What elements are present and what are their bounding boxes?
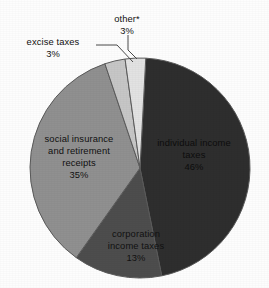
slice-label-line1: individual income <box>157 137 231 148</box>
slice-label-line1: other* <box>114 13 140 24</box>
pie-chart-figure: individual income taxes 46% social insur… <box>0 0 269 288</box>
slice-label-line1: corporation <box>112 228 160 239</box>
slice-percent: 46% <box>140 161 248 173</box>
slice-percent: 13% <box>84 252 188 264</box>
slice-label-corporation-income-taxes: corporation income taxes 13% <box>84 228 188 264</box>
slice-percent: 3% <box>6 48 100 60</box>
slice-label-other: other* 3% <box>98 13 156 37</box>
slice-label-excise-taxes: excise taxes 3% <box>6 36 100 60</box>
slice-label-line2: taxes <box>183 149 206 160</box>
slice-label-line1: excise taxes <box>27 36 80 47</box>
slice-label-line2: and retirement <box>48 145 110 156</box>
slice-label-line1: social insurance <box>45 133 114 144</box>
slice-label-line2: income taxes <box>108 240 164 251</box>
slice-label-individual-income-taxes: individual income taxes 46% <box>140 137 248 173</box>
leader-line-other <box>128 35 137 59</box>
slice-label-social-insurance-and-retirement-receipts: social insurance and retirement receipts… <box>24 133 134 181</box>
slice-percent: 3% <box>98 25 156 37</box>
slice-percent: 35% <box>24 169 134 181</box>
slice-label-line3: receipts <box>62 157 96 168</box>
